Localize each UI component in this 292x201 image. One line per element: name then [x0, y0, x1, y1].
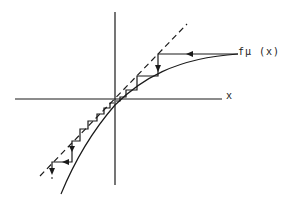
cobweb-diagram: x fμ (x) [0, 0, 292, 201]
arrow-down-icon [69, 146, 75, 152]
diagram-graphic [0, 0, 292, 201]
curve-label: fμ (x) [238, 46, 280, 57]
arrow-down-icon [155, 65, 161, 72]
cobweb-path-lower [52, 103, 114, 172]
cobweb-path-upper [116, 54, 238, 101]
arrow-left-icon [62, 159, 69, 165]
arrow-down-icon [49, 168, 55, 175]
arrow-left-icon [186, 51, 193, 57]
x-axis-label: x [226, 90, 232, 101]
identity-line [40, 24, 187, 176]
